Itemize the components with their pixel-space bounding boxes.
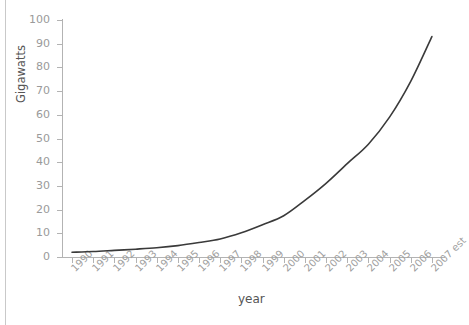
y-axis-title: Gigawatts — [14, 45, 28, 103]
x-axis-title: year — [238, 292, 265, 306]
plot-area: 0102030405060708090100 19901991199219931… — [0, 0, 469, 325]
series-layer — [0, 0, 469, 325]
chart-figure: 0102030405060708090100 19901991199219931… — [0, 0, 469, 325]
line-series-installed-capacity — [72, 37, 432, 253]
